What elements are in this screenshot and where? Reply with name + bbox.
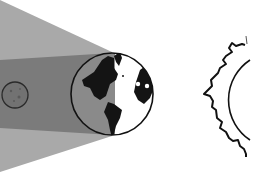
diagram-canvas <box>0 0 266 172</box>
eclipse-diagram: Lunar eclipse: Moon inside Earth's shado… <box>0 0 266 172</box>
sun-icon <box>204 36 250 157</box>
moon-icon <box>2 82 28 108</box>
